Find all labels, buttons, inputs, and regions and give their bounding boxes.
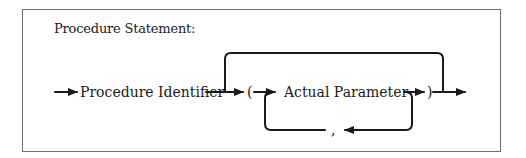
node-close-paren: ) — [427, 84, 432, 100]
syntax-diagram: Procedure Identifier ( Actual Parameter … — [0, 0, 526, 158]
node-actual-parameter: Actual Parameter — [283, 84, 409, 100]
node-comma: , — [331, 122, 335, 138]
node-open-paren: ( — [247, 84, 252, 100]
node-procedure-identifier: Procedure Identifier — [80, 84, 225, 100]
